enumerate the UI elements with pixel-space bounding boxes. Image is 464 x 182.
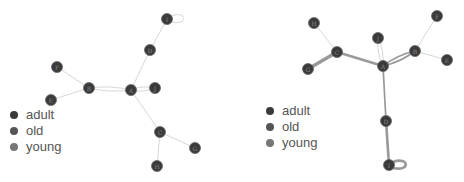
node-label: J xyxy=(376,35,380,43)
node-label: C xyxy=(335,49,340,56)
node-label: A xyxy=(128,87,134,94)
nodes: ABCDEFGHIJ xyxy=(303,11,453,171)
legend-label: adult xyxy=(26,107,54,123)
node-label: F xyxy=(435,13,439,20)
node-C[interactable]: C xyxy=(155,127,166,138)
nodes: ABCDEFGHIJ xyxy=(46,14,201,172)
node-label: D xyxy=(384,118,389,125)
node-D[interactable]: D xyxy=(145,45,156,56)
node-A[interactable]: A xyxy=(378,61,389,72)
legend-item-old: old xyxy=(266,119,317,135)
legend-item-adult: adult xyxy=(10,107,61,123)
node-C[interactable]: C xyxy=(332,47,343,58)
edge-A-C xyxy=(131,90,160,132)
node-label: E xyxy=(49,97,53,104)
edge-A-D xyxy=(383,66,386,121)
edge-D-I xyxy=(386,121,389,165)
legend-label: young xyxy=(282,135,317,151)
young-dot-icon xyxy=(10,143,18,151)
node-label: J xyxy=(153,85,157,93)
edge-B-E xyxy=(51,88,89,100)
node-F[interactable]: F xyxy=(52,62,63,73)
self-loop-edge-I xyxy=(393,161,406,169)
node-label: G xyxy=(193,145,198,152)
adult-dot-icon xyxy=(266,107,274,115)
node-label: G xyxy=(306,66,311,73)
node-label: C xyxy=(158,129,163,136)
right-legend: adult old young xyxy=(266,103,317,151)
edges xyxy=(51,15,195,166)
right-graph-panel: ABCDEFGHIJ adult old young xyxy=(232,0,464,182)
node-label: D xyxy=(148,47,153,54)
legend-item-old: old xyxy=(10,123,61,139)
node-A[interactable]: A xyxy=(126,85,137,96)
node-E[interactable]: E xyxy=(46,95,57,106)
node-H[interactable]: H xyxy=(152,161,163,172)
legend-label: young xyxy=(26,139,61,155)
node-label: B xyxy=(87,85,92,92)
node-G[interactable]: G xyxy=(303,64,314,75)
node-F[interactable]: F xyxy=(432,11,443,22)
node-B[interactable]: B xyxy=(84,83,95,94)
node-I[interactable]: I xyxy=(162,14,173,25)
legend-label: adult xyxy=(282,103,310,119)
left-graph-panel: ABCDEFGHIJ adult old young xyxy=(0,0,232,182)
node-label: E xyxy=(445,57,449,64)
left-legend: adult old young xyxy=(10,107,61,155)
node-J[interactable]: J xyxy=(373,33,384,44)
node-E[interactable]: E xyxy=(442,55,453,66)
node-D[interactable]: D xyxy=(381,116,392,127)
right-network-graph: ABCDEFGHIJ xyxy=(232,0,464,182)
node-label: B xyxy=(413,48,418,55)
node-label: H xyxy=(311,20,316,27)
node-label: A xyxy=(380,63,386,70)
node-label: H xyxy=(154,163,159,170)
edge-A-C xyxy=(337,52,383,66)
adult-dot-icon xyxy=(10,111,18,119)
old-dot-icon xyxy=(266,123,274,131)
legend-item-adult: adult xyxy=(266,103,317,119)
legend-item-young: young xyxy=(10,139,61,155)
node-H[interactable]: H xyxy=(309,18,320,29)
node-label: F xyxy=(55,64,59,71)
node-J[interactable]: J xyxy=(150,83,161,94)
old-dot-icon xyxy=(10,127,18,135)
node-I[interactable]: I xyxy=(384,160,395,171)
edge-B-F xyxy=(415,16,437,51)
edge-A-D xyxy=(131,50,150,90)
legend-item-young: young xyxy=(266,135,317,151)
legend-label: old xyxy=(282,119,299,135)
node-G[interactable]: G xyxy=(190,143,201,154)
node-B[interactable]: B xyxy=(410,46,421,57)
self-loop-edge-I xyxy=(171,15,184,23)
young-dot-icon xyxy=(266,139,274,147)
legend-label: old xyxy=(26,123,43,139)
